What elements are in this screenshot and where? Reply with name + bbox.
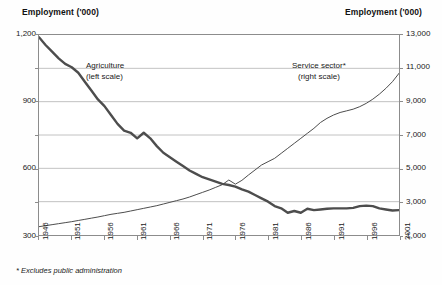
- x-axis-tick-label: 2001: [404, 222, 412, 240]
- x-axis-tick-label: 1946: [42, 222, 50, 240]
- tick-mark: [235, 236, 236, 240]
- x-axis-tick-label: 1976: [239, 222, 247, 240]
- tick-mark: [35, 202, 38, 203]
- agriculture-label-line1: Agriculture: [86, 61, 124, 70]
- tick-mark: [38, 236, 39, 240]
- tick-mark: [400, 68, 403, 69]
- x-axis-tick-label: 1966: [173, 222, 181, 240]
- right-axis-tick-label: 3,000: [406, 198, 426, 206]
- x-axis-tick-label: 1951: [74, 222, 82, 240]
- tick-mark: [268, 236, 269, 240]
- x-axis-tick-label: 1971: [206, 222, 214, 240]
- x-axis-tick-label: 1996: [371, 222, 379, 240]
- right-axis-tick-label: 7,000: [406, 131, 426, 139]
- series-line: [39, 73, 399, 226]
- tick-mark: [35, 34, 38, 35]
- tick-mark: [35, 101, 38, 102]
- x-axis-tick-label: 1956: [107, 222, 115, 240]
- left-axis-tick-label: 300: [23, 232, 36, 240]
- chart-container: Employment ('000) Employment ('000) 1,20…: [0, 0, 442, 285]
- tick-mark: [35, 169, 38, 170]
- tick-mark: [35, 236, 38, 237]
- tick-mark: [203, 236, 204, 240]
- tick-mark: [301, 236, 302, 240]
- tick-mark: [137, 236, 138, 240]
- x-axis-tick-label: 1981: [272, 222, 280, 240]
- tick-mark: [334, 236, 335, 240]
- tick-mark: [400, 236, 403, 237]
- tick-mark: [170, 236, 171, 240]
- x-axis-tick-label: 1991: [338, 222, 346, 240]
- tick-mark: [400, 169, 403, 170]
- right-axis-title: Employment ('000): [345, 7, 422, 17]
- tick-mark: [400, 101, 403, 102]
- x-axis-tick-label: 1986: [305, 222, 313, 240]
- tick-mark: [400, 202, 403, 203]
- tick-mark: [71, 236, 72, 240]
- right-axis-tick-label: 5,000: [406, 164, 426, 172]
- agriculture-series-label: Agriculture (left scale): [86, 61, 124, 82]
- tick-mark: [400, 135, 403, 136]
- right-axis-tick-label: 11,000: [406, 63, 430, 71]
- tick-mark: [104, 236, 105, 240]
- tick-mark: [35, 135, 38, 136]
- agriculture-label-line2: (left scale): [86, 72, 124, 83]
- service-label-line1: Service sector*: [292, 61, 346, 70]
- right-axis-tick-label: 9,000: [406, 97, 426, 105]
- left-axis-title: Employment ('000): [22, 7, 99, 17]
- left-axis-tick-label: 900: [23, 97, 36, 105]
- x-axis-tick-label: 1961: [140, 222, 148, 240]
- tick-mark: [400, 34, 403, 35]
- left-axis-tick-label: 1,200: [16, 30, 36, 38]
- service-series-label: Service sector* (right scale): [292, 61, 346, 82]
- right-axis-tick-label: 13,000: [406, 30, 430, 38]
- service-label-line2: (right scale): [292, 72, 346, 83]
- tick-mark: [367, 236, 368, 240]
- chart-footnote: * Excludes public administration: [16, 266, 122, 275]
- left-axis-tick-label: 600: [23, 164, 36, 172]
- tick-mark: [35, 68, 38, 69]
